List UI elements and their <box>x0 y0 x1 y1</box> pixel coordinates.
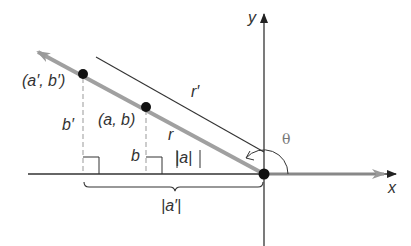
x-axis-label: x <box>388 180 396 196</box>
abs-a-label: |a| <box>175 150 192 166</box>
right-angle-mark-outer <box>83 157 99 174</box>
r-prime-label: r′ <box>191 84 199 100</box>
r-prime-length-line <box>96 57 264 152</box>
point-a-b-label: (a, b) <box>98 112 135 128</box>
terminal-side-ray <box>38 52 264 174</box>
point-a-prime-b-prime-label: (a′, b′) <box>22 73 65 89</box>
b-label: b <box>131 148 140 164</box>
b-prime-label: b′ <box>62 117 74 133</box>
right-angle-mark-inner <box>146 157 162 174</box>
r-label: r <box>168 127 173 143</box>
origin-point <box>259 169 270 180</box>
theta-label: θ <box>282 132 290 146</box>
diagram: y x (a′, b′) (a, b) r′ r b′ b |a| |a′| θ <box>0 0 411 246</box>
y-axis-label: y <box>248 10 256 26</box>
abs-a-prime-brace <box>84 182 263 191</box>
point-a-prime-b-prime <box>78 69 88 79</box>
abs-a-prime-label: |a′| <box>161 198 181 214</box>
point-a-b <box>141 102 151 112</box>
